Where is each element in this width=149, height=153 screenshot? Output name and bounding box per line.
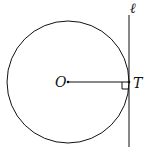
label-line: ℓ — [130, 0, 136, 16]
label-center: O — [55, 74, 67, 90]
tangent-diagram: O T ℓ — [0, 0, 149, 153]
tangent-point — [128, 81, 131, 84]
center-point — [67, 81, 70, 84]
label-tangent-point: T — [133, 75, 144, 91]
right-angle-marker — [122, 82, 129, 89]
